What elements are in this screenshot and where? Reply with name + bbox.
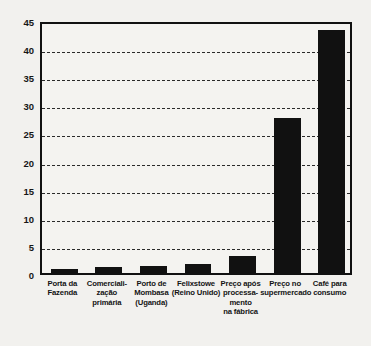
y-tick-label: 0 [2, 270, 34, 281]
bar [140, 266, 167, 273]
y-tick-label: 30 [2, 101, 34, 112]
bar [318, 30, 345, 273]
gridline-35 [42, 80, 350, 81]
gridline-20 [42, 165, 350, 166]
bar [185, 264, 212, 273]
y-tick-label: 35 [2, 73, 34, 84]
x-tick-label: Porta da Fazenda [37, 279, 87, 298]
x-tick-label: Comerciali- zação primária [82, 279, 132, 307]
y-tick-label: 5 [2, 241, 34, 252]
gridline-15 [42, 193, 350, 194]
x-tick-label: Preço no supermercado [260, 279, 310, 298]
gridline-40 [42, 52, 350, 53]
bar [274, 118, 301, 273]
gridline-30 [42, 108, 350, 109]
bar [95, 267, 122, 273]
y-tick-label: 40 [2, 45, 34, 56]
plot-area [40, 22, 352, 275]
x-tick-label: Café para consumo [305, 279, 355, 298]
bar-chart: 051015202530354045 Porta da FazendaComer… [0, 0, 371, 346]
plot-inner [42, 24, 350, 273]
y-tick-label: 45 [2, 17, 34, 28]
bar [229, 256, 256, 273]
y-tick-label: 10 [2, 213, 34, 224]
x-tick-label: Felixstowe (Reino Unido) [171, 279, 221, 298]
x-tick-label: Preço após processa- mento na fábrica [216, 279, 266, 317]
gridline-5 [42, 249, 350, 250]
bar [51, 269, 78, 273]
x-axis: Porta da FazendaComerciali- zação primár… [40, 279, 352, 343]
y-tick-label: 15 [2, 185, 34, 196]
x-tick-label: Porto de Mombasa (Uganda) [126, 279, 176, 307]
y-tick-label: 25 [2, 129, 34, 140]
gridline-25 [42, 136, 350, 137]
y-tick-label: 20 [2, 157, 34, 168]
gridline-10 [42, 221, 350, 222]
